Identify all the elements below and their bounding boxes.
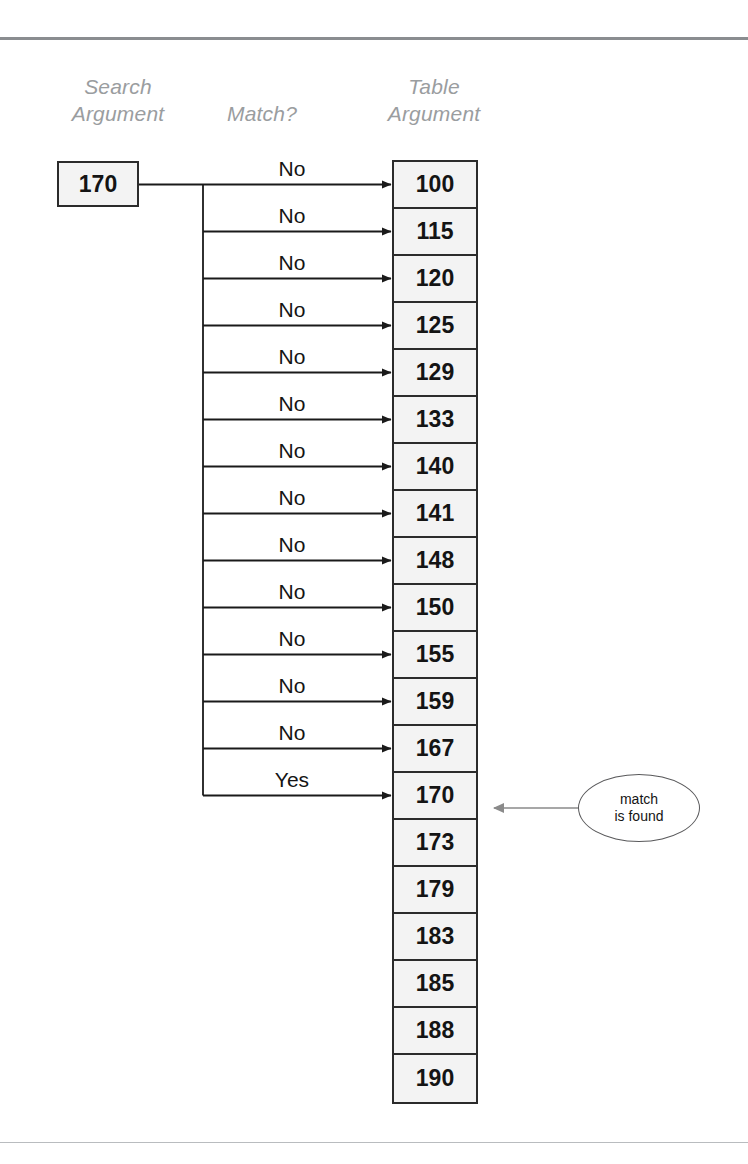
- table-cell: 155: [394, 632, 476, 679]
- match-label: No: [232, 533, 352, 557]
- table-cell: 167: [394, 726, 476, 773]
- table-cell: 141: [394, 491, 476, 538]
- match-label: No: [232, 627, 352, 651]
- match-label: No: [232, 251, 352, 275]
- bottom-rule: [0, 1142, 748, 1143]
- match-label: No: [232, 392, 352, 416]
- match-label: No: [232, 298, 352, 322]
- column-header-table-argument: Table Argument: [358, 73, 510, 127]
- table-cell: 185: [394, 961, 476, 1008]
- table-cell: 125: [394, 303, 476, 350]
- match-label: No: [232, 204, 352, 228]
- table-cell: 159: [394, 679, 476, 726]
- table-cell: 120: [394, 256, 476, 303]
- diagram-canvas: Search Argument Match? Table Argument 17…: [0, 0, 748, 1164]
- table-argument-column: 1001151201251291331401411481501551591671…: [392, 160, 478, 1104]
- match-label: No: [232, 157, 352, 181]
- match-label: No: [232, 345, 352, 369]
- top-rule: [0, 37, 748, 40]
- table-cell: 129: [394, 350, 476, 397]
- table-cell: 133: [394, 397, 476, 444]
- table-cell: 179: [394, 867, 476, 914]
- table-cell: 173: [394, 820, 476, 867]
- match-label: Yes: [232, 768, 352, 792]
- match-label: No: [232, 580, 352, 604]
- table-cell: 100: [394, 162, 476, 209]
- table-cell: 183: [394, 914, 476, 961]
- match-label: No: [232, 674, 352, 698]
- match-label: No: [232, 721, 352, 745]
- callout-line-1: match: [620, 791, 658, 808]
- column-header-match: Match?: [198, 100, 326, 127]
- table-cell: 190: [394, 1055, 476, 1102]
- match-label: No: [232, 439, 352, 463]
- callout-line-2: is found: [614, 808, 663, 825]
- match-label: No: [232, 486, 352, 510]
- table-cell: 170: [394, 773, 476, 820]
- column-header-search-argument: Search Argument: [44, 73, 192, 127]
- match-found-callout: match is found: [578, 774, 700, 842]
- table-cell: 188: [394, 1008, 476, 1055]
- search-argument-box: 170: [57, 161, 139, 207]
- table-cell: 140: [394, 444, 476, 491]
- table-cell: 150: [394, 585, 476, 632]
- table-cell: 115: [394, 209, 476, 256]
- table-cell: 148: [394, 538, 476, 585]
